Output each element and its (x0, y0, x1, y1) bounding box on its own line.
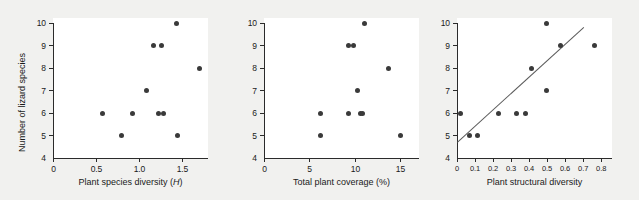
panel-3-y-tick-6 (453, 113, 457, 114)
y-axis-title: Number of lizard species (17, 53, 27, 152)
panel-3-x-tick-0.8 (601, 158, 602, 162)
panel-3-y-tick-5 (453, 135, 457, 136)
panel-1-y-tick-5 (49, 135, 53, 136)
panel-2-plot-area (264, 18, 419, 158)
panel-3-x-axis-title: Plant structural diversity (457, 177, 612, 187)
panel-2-x-axis-title: Total plant coverage (%) (264, 177, 419, 187)
panel-1-y-ticklabel-6: 6 (28, 108, 46, 118)
panel-total-plant-coverage: 10 9 8 7 6 5 4 0 5 10 15 Total plant cov… (211, 0, 424, 200)
data-point (386, 66, 391, 71)
panel-2-y-axis (264, 23, 265, 158)
panel-3-y-ticklabel-8: 8 (432, 63, 450, 73)
panel-3-y-ticklabel-10: 10 (432, 18, 450, 28)
panel-2-x-ticklabel-5: 5 (299, 164, 320, 174)
panel-2-y-tick-7 (260, 90, 264, 91)
data-point (360, 111, 365, 116)
panel-2-y-tick-6 (260, 113, 264, 114)
panel-1-y-ticklabel-9: 9 (28, 41, 46, 51)
panel-1-y-tick-9 (49, 45, 53, 46)
panel-3-y-tick-7 (453, 90, 457, 91)
panel-1-x-tick-0 (53, 158, 54, 162)
panel-2-y-ticklabel-8: 8 (239, 63, 257, 73)
panel-2-x-tick-10 (355, 158, 356, 162)
panel-2-y-ticklabel-4: 4 (239, 153, 257, 163)
panel-1-x-tick-0.5 (96, 158, 97, 162)
panel-1-y-tick-8 (49, 68, 53, 69)
panel-3-x-tick-0.4 (529, 158, 530, 162)
panel-3-y-ticklabel-5: 5 (432, 131, 450, 141)
panel-2-x-ticklabel-10: 10 (345, 164, 366, 174)
panel-3-y-axis (457, 23, 458, 158)
data-point (362, 21, 367, 26)
panel-2-x-tick-15 (400, 158, 401, 162)
panel-3-y-ticklabel-7: 7 (432, 86, 450, 96)
data-point (156, 111, 161, 116)
data-point (130, 111, 135, 116)
panel-2-y-tick-5 (260, 135, 264, 136)
panel-3-x-ticklabel-0.1: 0.1 (465, 164, 485, 173)
panel-3-x-ticklabel-0.5: 0.5 (537, 164, 557, 173)
data-point (318, 111, 323, 116)
panel-3-x-tick-0.7 (583, 158, 584, 162)
data-point (544, 88, 549, 93)
panel-1-y-tick-7 (49, 90, 53, 91)
data-point (174, 21, 179, 26)
panel-3-x-tick-0.5 (547, 158, 548, 162)
panel-3-x-tick-0.1 (475, 158, 476, 162)
panel-1-y-ticklabel-5: 5 (28, 131, 46, 141)
panel-1-plot-area (53, 18, 208, 158)
panel-2-x-ticklabel-0: 0 (254, 164, 275, 174)
data-point (544, 21, 549, 26)
panel-2-x-tick-5 (309, 158, 310, 162)
figure-lizard-species-scatterplots: Number of lizard species 10 9 8 7 6 5 4 … (0, 0, 639, 200)
panel-2-y-tick-9 (260, 45, 264, 46)
panel-3-x-axis (457, 158, 612, 159)
panel-1-y-ticklabel-8: 8 (28, 63, 46, 73)
data-point (161, 111, 166, 116)
panel-2-x-tick-0 (264, 158, 265, 162)
data-point (355, 88, 360, 93)
panel-1-x-axis-title-paren: ) (180, 177, 183, 187)
panel-1-x-axis (53, 158, 208, 159)
data-point (514, 111, 519, 116)
panel-1-x-ticklabel-1.5: 1.5 (172, 164, 193, 174)
panel-1-x-tick-1.5 (182, 158, 183, 162)
panel-3-x-ticklabel-0.2: 0.2 (483, 164, 503, 173)
panel-1-x-axis-title: Plant species diversity (H) (53, 177, 208, 187)
panel-3-x-tick-0 (457, 158, 458, 162)
panel-3-y-tick-9 (453, 45, 457, 46)
panel-1-y-ticklabel-7: 7 (28, 86, 46, 96)
panel-1-x-ticklabel-0: 0 (43, 164, 64, 174)
panel-3-y-ticklabel-4: 4 (432, 153, 450, 163)
data-point (346, 111, 351, 116)
data-point (496, 111, 501, 116)
panel-2-y-ticklabel-10: 10 (239, 18, 257, 28)
panel-2-y-ticklabel-6: 6 (239, 108, 257, 118)
panel-3-x-ticklabel-0.8: 0.8 (591, 164, 611, 173)
data-point (529, 66, 534, 71)
panel-plant-species-diversity: Number of lizard species 10 9 8 7 6 5 4 … (0, 0, 213, 200)
panel-3-y-tick-10 (453, 23, 457, 24)
data-point (318, 133, 323, 138)
panel-2-y-ticklabel-7: 7 (239, 86, 257, 96)
panel-3-plot-area (457, 18, 612, 158)
panel-1-x-ticklabel-1.0: 1.0 (129, 164, 150, 174)
panel-1-x-ticklabel-0.5: 0.5 (86, 164, 107, 174)
panel-1-y-ticklabel-4: 4 (28, 153, 46, 163)
panel-1-y-ticklabel-10: 10 (28, 18, 46, 28)
data-point (458, 111, 463, 116)
data-point (100, 111, 105, 116)
panel-2-x-axis (264, 158, 419, 159)
data-point (523, 111, 528, 116)
data-point (351, 43, 356, 48)
panel-1-y-tick-10 (49, 23, 53, 24)
panel-plant-structural-diversity: 10 9 8 7 6 5 4 00.10.20.30.40.50.60.70.8… (404, 0, 617, 200)
panel-1-x-axis-title-text: Plant species diversity ( (78, 177, 173, 187)
panel-3-y-tick-8 (453, 68, 457, 69)
panel-2-y-ticklabel-9: 9 (239, 41, 257, 51)
panel-3-x-ticklabel-0.7: 0.7 (573, 164, 593, 173)
panel-3-x-tick-0.6 (565, 158, 566, 162)
data-point (159, 43, 164, 48)
panel-1-y-tick-6 (49, 113, 53, 114)
panel-3-y-ticklabel-6: 6 (432, 108, 450, 118)
